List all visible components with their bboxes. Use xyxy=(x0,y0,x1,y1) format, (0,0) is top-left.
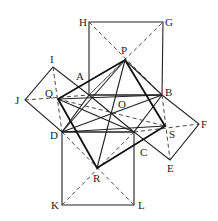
label-i: I xyxy=(50,53,54,65)
label-s: S xyxy=(169,128,175,140)
label-r: R xyxy=(93,172,101,184)
line-bd xyxy=(62,95,162,132)
label-f: F xyxy=(201,118,207,130)
label-q: Q xyxy=(45,87,53,99)
line-ds xyxy=(62,126,165,132)
label-l: L xyxy=(138,199,145,211)
label-d: D xyxy=(50,129,58,141)
label-c: C xyxy=(140,146,147,158)
label-k: K xyxy=(51,199,59,211)
label-e: E xyxy=(167,162,174,174)
label-h: H xyxy=(79,16,87,28)
label-j: J xyxy=(15,94,20,106)
label-g: G xyxy=(165,16,173,28)
label-a: A xyxy=(76,70,84,82)
label-p: P xyxy=(121,44,127,56)
geometry-diagram: H G P I A B Q J O D C S F E R K L xyxy=(0,0,218,221)
label-b: B xyxy=(165,86,172,98)
label-o: O xyxy=(118,98,126,110)
